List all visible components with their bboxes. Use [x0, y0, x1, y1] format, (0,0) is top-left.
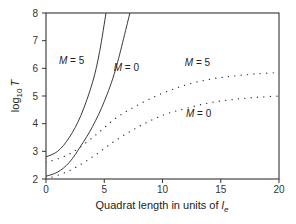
x-tick-label: 20 — [273, 184, 285, 195]
series-line-3 — [46, 96, 279, 179]
y-tick-label: 2 — [32, 174, 38, 185]
y-tick-label: 8 — [32, 8, 38, 19]
y-axis-label: log10T — [9, 79, 24, 113]
x-tick-label: 10 — [157, 184, 169, 195]
chart: 051015202345678 M = 5M = 0M = 5M = 0 Qua… — [0, 0, 296, 224]
annotation-label: M = 5 — [185, 57, 211, 68]
y-tick-label: 3 — [32, 146, 38, 157]
series-line-2 — [46, 72, 279, 162]
axes: 051015202345678 — [32, 8, 285, 196]
x-axis-label: Quadrat length in units of le — [96, 199, 229, 214]
annotation-label: M = 5 — [59, 55, 85, 66]
x-tick-label: 15 — [215, 184, 227, 195]
annotation-label: M = 0 — [186, 108, 212, 119]
y-tick-label: 7 — [32, 35, 38, 46]
y-tick-label: 5 — [32, 91, 38, 102]
plot-frame — [46, 13, 279, 179]
x-tick-label: 0 — [43, 184, 49, 195]
plot-area — [46, 13, 279, 179]
x-tick-label: 5 — [101, 184, 107, 195]
series-line-0 — [46, 13, 106, 157]
annotation-label: M = 0 — [114, 62, 140, 73]
y-tick-label: 6 — [32, 63, 38, 74]
series-line-1 — [46, 13, 130, 176]
annotations: M = 5M = 0M = 5M = 0 — [59, 55, 212, 119]
y-tick-label: 4 — [32, 118, 38, 129]
